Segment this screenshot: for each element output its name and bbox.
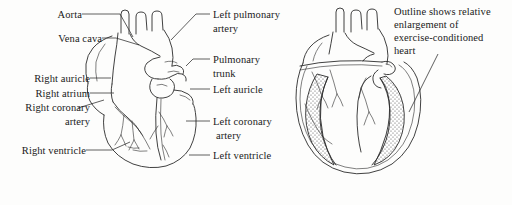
external-heart-drawing <box>86 10 196 168</box>
label-left-pulmonary-artery-line1: Left pulmonary <box>213 8 280 22</box>
label-pulmonary-trunk-line1: Pulmonary <box>213 53 260 67</box>
clipped-caption <box>0 199 512 205</box>
annotation-line4: heart <box>394 44 416 58</box>
label-left-coronary-artery-line2: artery <box>216 129 241 143</box>
label-right-coronary-artery-line1: Right coronary <box>0 101 90 115</box>
label-left-auricle: Left auricle <box>213 83 263 97</box>
leader-lines-center <box>171 14 210 155</box>
heart-anatomy-figure: Aorta Vena cava Right auricle Right atri… <box>0 0 512 205</box>
label-pulmonary-trunk-line2: trunk <box>213 67 236 81</box>
label-vena-cava: Vena cava <box>8 32 102 46</box>
label-right-ventricle: Right ventricle <box>0 144 86 158</box>
label-left-coronary-artery-line1: Left coronary <box>213 115 272 129</box>
label-right-coronary-artery-line2: artery <box>0 115 90 129</box>
label-aorta: Aorta <box>8 8 82 22</box>
label-left-pulmonary-artery-line2: artery <box>213 22 238 36</box>
label-right-auricle: Right auricle <box>2 72 90 86</box>
annotation-line3: exercise-conditioned <box>394 31 483 45</box>
label-left-ventricle: Left ventricle <box>213 149 271 163</box>
annotation-line2: enlargement of <box>394 18 458 32</box>
label-right-atrium: Right atrium <box>2 87 90 101</box>
annotation-line1: Outline shows relative <box>394 5 491 19</box>
